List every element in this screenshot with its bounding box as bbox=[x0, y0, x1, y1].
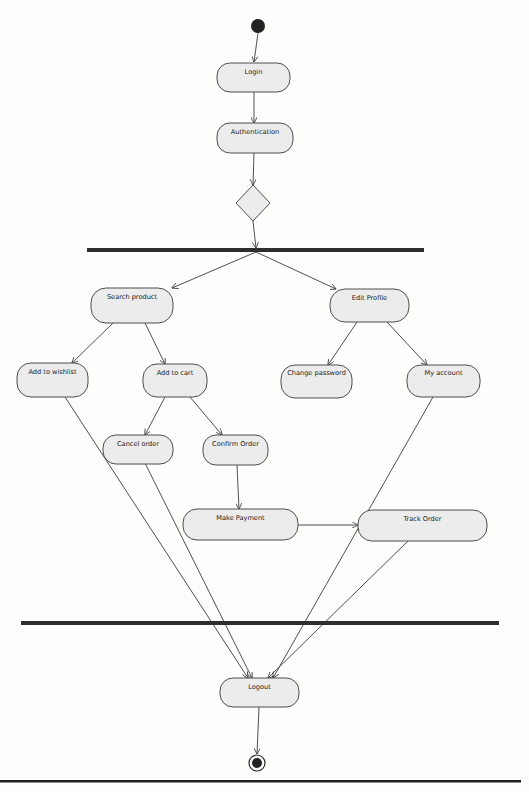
node-label: Logout bbox=[248, 683, 271, 691]
page-divider bbox=[0, 780, 521, 783]
edge-search-cart bbox=[145, 323, 165, 364]
edge-cart-confirm bbox=[190, 397, 222, 435]
edge-cart-cancel bbox=[145, 397, 165, 435]
node-label: Track Order bbox=[402, 515, 441, 523]
join-bar bbox=[21, 621, 499, 625]
edge-edit-changepw bbox=[328, 322, 357, 365]
node-my-account: My account bbox=[407, 365, 480, 397]
final-node-icon bbox=[249, 755, 265, 771]
node-cancel-order: Cancel order bbox=[103, 435, 173, 464]
node-confirm-order: Confirm Order bbox=[203, 435, 268, 465]
node-label: Login bbox=[245, 68, 263, 76]
edge-start-login bbox=[254, 33, 258, 62]
node-change-password: Change password bbox=[281, 365, 352, 398]
node-label: Cancel order bbox=[117, 440, 159, 448]
node-label: Change password bbox=[287, 369, 346, 377]
edge-authentication-decision bbox=[253, 153, 254, 185]
edge-decision-fork bbox=[253, 221, 256, 248]
activity-diagram: Login Authentication Search product Edit… bbox=[0, 0, 529, 792]
edge-logout-final bbox=[257, 707, 259, 754]
node-authentication: Authentication bbox=[217, 123, 293, 153]
node-label: Confirm Order bbox=[212, 440, 259, 448]
edge-fork-search-product bbox=[172, 252, 256, 288]
node-label: Edit Profile bbox=[352, 294, 387, 302]
node-edit-profile: Edit Profile bbox=[330, 289, 409, 322]
node-label: Authentication bbox=[231, 128, 279, 136]
node-add-to-cart: Add to cart bbox=[143, 364, 207, 397]
node-label: Add to cart bbox=[157, 369, 194, 377]
node-login: Login bbox=[217, 63, 290, 92]
node-label: Add to wishlist bbox=[28, 368, 77, 376]
edge-track-logout bbox=[268, 541, 408, 678]
node-make-payment: Make Payment bbox=[183, 509, 298, 540]
node-label: Make Payment bbox=[216, 514, 265, 522]
node-add-to-wishlist: Add to wishlist bbox=[17, 363, 88, 397]
node-logout: Logout bbox=[220, 678, 299, 707]
node-label: Search product bbox=[107, 293, 158, 301]
edge-confirm-payment bbox=[237, 465, 239, 509]
edge-cancel-logout bbox=[145, 463, 252, 678]
fork-bar bbox=[87, 248, 424, 252]
node-label: My account bbox=[425, 369, 463, 377]
edge-fork-edit-profile bbox=[256, 252, 336, 289]
edge-edit-myaccount bbox=[387, 322, 427, 365]
edge-search-wishlist bbox=[72, 323, 113, 363]
node-track-order: Track Order bbox=[358, 510, 487, 541]
initial-node-icon bbox=[251, 19, 265, 33]
decision-node-icon bbox=[236, 185, 270, 221]
node-search-product: Search product bbox=[91, 288, 173, 323]
